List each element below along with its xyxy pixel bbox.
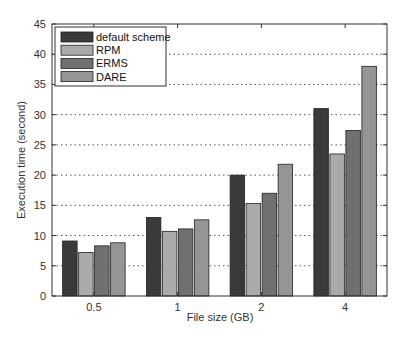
y-tick-label: 25 [34,139,46,151]
bar-default-scheme [63,241,78,296]
bar-erms [346,130,361,296]
legend: default schemeRPMERMSDARE [55,27,171,86]
bar-erms [262,193,277,296]
y-tick-label: 20 [34,169,46,181]
y-tick-label: 5 [40,260,46,272]
y-tick-label: 15 [34,199,46,211]
y-tick-label: 35 [34,78,46,90]
x-tick-label: 0.5 [86,301,101,313]
legend-label: DARE [96,71,127,83]
legend-swatch [61,72,93,82]
bar-default-scheme [314,109,329,296]
x-tick-label: 1 [175,301,181,313]
legend-swatch [61,58,93,68]
bar-dare [111,243,126,296]
bar-chart: 051015202530354045 0.5124 File size (GB)… [0,0,408,341]
y-tick-label: 0 [40,290,46,302]
bar-dare [362,66,377,296]
x-tick-label: 2 [258,301,264,313]
y-tick-label: 45 [34,18,46,30]
legend-label: ERMS [96,57,128,69]
bar-rpm [246,204,261,296]
bar-dare [278,164,293,296]
x-axis-label: File size (GB) [187,311,254,323]
x-tick-label: 4 [342,301,348,313]
y-axis-label: Execution time (second) [15,101,27,219]
bars [63,66,377,296]
bar-erms [95,246,110,296]
legend-label: RPM [96,44,120,56]
bar-rpm [79,252,94,296]
bar-dare [194,220,209,296]
legend-swatch [61,45,93,55]
y-tick-label: 10 [34,230,46,242]
bar-rpm [162,231,177,296]
bar-default-scheme [146,217,161,296]
legend-swatch [61,32,93,42]
y-tick-label: 30 [34,109,46,121]
bar-erms [178,229,193,296]
bar-rpm [330,154,345,296]
legend-label: default scheme [96,31,171,43]
y-tick-label: 40 [34,48,46,60]
bar-default-scheme [230,175,245,296]
